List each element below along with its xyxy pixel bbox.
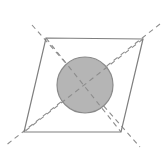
geometry-figure-svg: Parallelogram with inscribed shaded circ…: [0, 0, 165, 155]
figure-container: Parallelogram with inscribed shaded circ…: [0, 0, 165, 155]
